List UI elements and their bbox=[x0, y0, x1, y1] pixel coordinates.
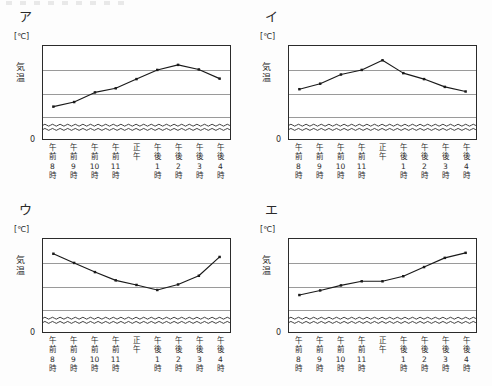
x-axis-label-char: 正 bbox=[126, 336, 147, 345]
x-axis-label-char: 午 bbox=[105, 143, 126, 152]
x-axis-label-char: 午 bbox=[351, 336, 372, 345]
temperature-series-line bbox=[43, 46, 230, 139]
x-axis-label: 正午 bbox=[372, 143, 393, 191]
x-axis-label-char: 4 bbox=[456, 162, 477, 171]
x-axis-label-char: 後 bbox=[414, 152, 435, 161]
x-axis-labels: 午前8時午前9時午前10時午前11時正午 午後1時午後2時午後3時午後4時 bbox=[42, 336, 231, 384]
y-axis-zero-label: 0 bbox=[30, 136, 35, 144]
x-axis-label-char: 時 bbox=[456, 364, 477, 373]
x-axis-labels: 午前8時午前9時午前10時午前11時正午 午後1時午後2時午後3時午後4時 bbox=[42, 143, 231, 191]
x-axis-label-char: 午 bbox=[309, 336, 330, 345]
x-axis-label-char: 11 bbox=[105, 162, 126, 171]
x-axis-label-char: 8 bbox=[288, 162, 309, 171]
x-axis-label: 午後3時 bbox=[189, 336, 210, 384]
x-axis-label-char: 後 bbox=[456, 345, 477, 354]
x-axis-label-char: 前 bbox=[330, 345, 351, 354]
x-axis-label-char: 午 bbox=[126, 152, 147, 161]
plot-area: 15202530 bbox=[288, 238, 477, 333]
x-axis-label: 午後2時 bbox=[414, 336, 435, 384]
x-axis-label-char: 時 bbox=[189, 171, 210, 180]
x-axis-label-char: 午 bbox=[42, 143, 63, 152]
x-axis-label-char: 午 bbox=[309, 143, 330, 152]
x-axis-label-char: 午 bbox=[168, 143, 189, 152]
x-axis-label-char: 前 bbox=[42, 152, 63, 161]
x-axis-label-char: 前 bbox=[351, 152, 372, 161]
x-axis-label-char: 前 bbox=[63, 345, 84, 354]
x-axis-label-char: 午 bbox=[456, 336, 477, 345]
y-axis-unit-label: [℃] bbox=[14, 33, 29, 41]
x-axis-label-char: 午 bbox=[63, 336, 84, 345]
x-axis-label-char: 10 bbox=[330, 162, 351, 171]
panel-letter: イ bbox=[265, 10, 278, 23]
x-axis-label-char: 前 bbox=[330, 152, 351, 161]
x-axis-label-char: 午 bbox=[168, 336, 189, 345]
x-axis-label-char: 11 bbox=[351, 162, 372, 171]
panel-letter: ア bbox=[19, 10, 32, 23]
x-axis-label: 午後2時 bbox=[414, 143, 435, 191]
x-axis-label-char: 午 bbox=[372, 345, 393, 354]
x-axis-label-char: 午 bbox=[84, 143, 105, 152]
x-axis-label: 午後2時 bbox=[168, 143, 189, 191]
x-axis-label-char: 時 bbox=[330, 171, 351, 180]
x-axis-label-char: 正 bbox=[126, 143, 147, 152]
x-axis-label: 午後1時 bbox=[393, 143, 414, 191]
x-axis-label-char: 時 bbox=[105, 171, 126, 180]
x-axis-label-char: 前 bbox=[105, 152, 126, 161]
x-axis-label-char: 午 bbox=[210, 143, 231, 152]
x-axis-label-char: 3 bbox=[435, 355, 456, 364]
x-axis-label-char: 後 bbox=[189, 345, 210, 354]
x-axis-label-char: 午 bbox=[210, 336, 231, 345]
x-axis-label-char: 8 bbox=[42, 355, 63, 364]
x-axis-label-char: 午 bbox=[189, 336, 210, 345]
x-axis-label-char: 午 bbox=[126, 345, 147, 354]
x-axis-label-char: 時 bbox=[414, 171, 435, 180]
x-axis-label-char: 3 bbox=[435, 162, 456, 171]
x-axis-label-char bbox=[372, 171, 393, 180]
y-axis-title: 気温 bbox=[261, 62, 272, 84]
x-axis-label-char: 8 bbox=[42, 162, 63, 171]
x-axis-label-char: 午 bbox=[84, 336, 105, 345]
x-axis-label-char: 前 bbox=[63, 152, 84, 161]
x-axis-label-char: 10 bbox=[84, 355, 105, 364]
x-axis-label-char: 午 bbox=[435, 143, 456, 152]
x-axis-label: 午前8時 bbox=[42, 143, 63, 191]
x-axis-label-char: 11 bbox=[351, 355, 372, 364]
x-axis-label-char: 4 bbox=[456, 355, 477, 364]
x-axis-label-char bbox=[372, 355, 393, 364]
x-axis-label: 午前11時 bbox=[105, 336, 126, 384]
chart-panel-ウ: ウ[℃]気温152025300午前8時午前9時午前10時午前11時正午 午後1時… bbox=[0, 193, 246, 386]
x-axis-label-char: 午 bbox=[330, 336, 351, 345]
x-axis-label-char: 時 bbox=[456, 171, 477, 180]
x-axis-label-char: 午 bbox=[393, 143, 414, 152]
x-axis-label-char: 時 bbox=[42, 171, 63, 180]
x-axis-label-char: 午 bbox=[372, 152, 393, 161]
y-axis-title-char: 温 bbox=[15, 266, 26, 277]
x-axis-label-char: 1 bbox=[393, 162, 414, 171]
x-axis-label-char: 午 bbox=[189, 143, 210, 152]
x-axis-label: 午前11時 bbox=[351, 336, 372, 384]
x-axis-label-char: 時 bbox=[288, 364, 309, 373]
x-axis-label-char: 前 bbox=[105, 345, 126, 354]
x-axis-label-char: 9 bbox=[63, 162, 84, 171]
x-axis-label: 午後3時 bbox=[435, 336, 456, 384]
x-axis-label-char: 9 bbox=[63, 355, 84, 364]
panel-letter: ウ bbox=[19, 203, 32, 216]
x-axis-label-char: 後 bbox=[210, 152, 231, 161]
temperature-series-line bbox=[289, 239, 476, 332]
x-axis-label-char: 午 bbox=[147, 143, 168, 152]
x-axis-label: 午前11時 bbox=[105, 143, 126, 191]
plot-area: 15202530 bbox=[42, 45, 231, 140]
x-axis-label-char: 10 bbox=[84, 162, 105, 171]
x-axis-labels: 午前8時午前9時午前10時午前11時正午 午後1時午後2時午後3時午後4時 bbox=[288, 336, 477, 384]
x-axis-label-char: 時 bbox=[210, 364, 231, 373]
x-axis-label: 午前10時 bbox=[330, 336, 351, 384]
x-axis-label-char: 4 bbox=[210, 355, 231, 364]
x-axis-label-char: 2 bbox=[414, 355, 435, 364]
x-axis-label-char: 時 bbox=[189, 364, 210, 373]
x-axis-label-char: 時 bbox=[414, 364, 435, 373]
x-axis-label-char: 午 bbox=[456, 143, 477, 152]
x-axis-label: 正午 bbox=[126, 336, 147, 384]
y-axis-title: 気温 bbox=[261, 255, 272, 277]
chart-panel-エ: エ[℃]気温152025300午前8時午前9時午前10時午前11時正午 午後1時… bbox=[246, 193, 492, 386]
y-axis-title: 気温 bbox=[15, 255, 26, 277]
